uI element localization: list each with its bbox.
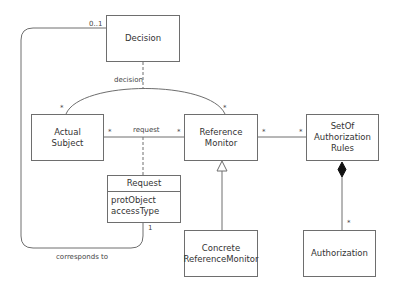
class-name: Concrete ReferenceMonitor: [183, 243, 258, 265]
mult-request-monitor: *: [177, 128, 181, 136]
class-name: Authorization: [311, 248, 368, 259]
class-reference-monitor[interactable]: Reference Monitor: [184, 114, 258, 161]
mult-rules-monitor: *: [262, 128, 266, 136]
class-set-of-authorization-rules[interactable]: SetOf Authorization Rules: [306, 114, 379, 161]
class-request[interactable]: Request protObject accessType: [107, 175, 181, 223]
mult-decision-monitor: *: [223, 104, 227, 112]
class-decision[interactable]: Decision: [106, 15, 180, 62]
mult-request-subject: *: [108, 128, 112, 136]
mult-authorization: *: [347, 219, 351, 227]
class-name: Reference Monitor: [200, 127, 243, 149]
composition-diamond-icon: [338, 162, 346, 177]
class-name: SetOf Authorization Rules: [314, 121, 371, 154]
mult-decision-01: 0..1: [89, 20, 102, 28]
class-name: Request: [108, 176, 180, 192]
mult-decision-subject: *: [60, 104, 64, 112]
attribute-access-type: accessType: [111, 206, 180, 217]
label-corresponds-to: corresponds to: [56, 253, 108, 261]
mult-rules-set: *: [299, 128, 303, 136]
decision-association: [66, 89, 225, 115]
label-decision: decision: [114, 76, 143, 84]
label-request: request: [133, 126, 160, 134]
class-concrete-reference-monitor[interactable]: Concrete ReferenceMonitor: [184, 230, 258, 277]
class-actual-subject[interactable]: Actual Subject: [31, 114, 104, 161]
mult-request-one: 1: [148, 224, 152, 232]
class-name: Actual Subject: [52, 127, 84, 149]
attribute-prot-object: protObject: [111, 195, 180, 206]
class-name: Decision: [125, 33, 161, 44]
generalization-triangle-icon: [217, 161, 227, 171]
class-authorization[interactable]: Authorization: [303, 230, 376, 277]
